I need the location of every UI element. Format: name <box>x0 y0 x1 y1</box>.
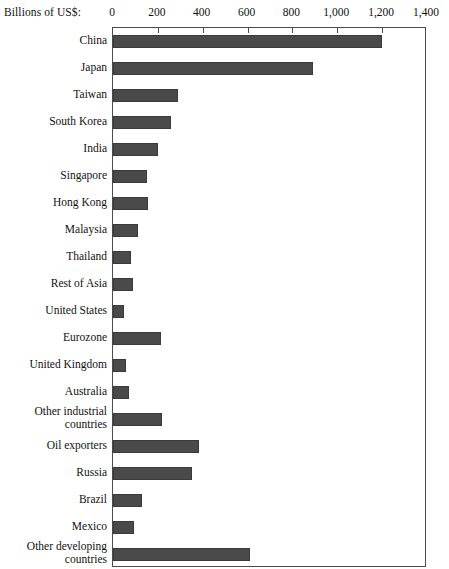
x-tick-label: 600 <box>238 6 255 18</box>
bar-row <box>113 487 425 514</box>
bar-row <box>113 190 425 217</box>
bar-row <box>113 298 425 325</box>
bar-row <box>113 460 425 487</box>
bar-row <box>113 352 425 379</box>
bar <box>113 467 192 480</box>
category-label: India <box>0 142 107 155</box>
bar-row <box>113 325 425 352</box>
bar <box>113 332 161 345</box>
bar-row <box>113 406 425 433</box>
category-label: Mexico <box>0 520 107 533</box>
bar-row <box>113 433 425 460</box>
bar <box>113 224 138 237</box>
category-label: China <box>0 34 107 47</box>
x-tick-label: 800 <box>283 6 300 18</box>
bar-row <box>113 136 425 163</box>
bar <box>113 521 134 534</box>
bar <box>113 305 124 318</box>
bar <box>113 548 250 561</box>
x-tick-label: 0 <box>109 6 115 18</box>
x-tick-label: 1,000 <box>323 6 349 18</box>
x-tick-label: 400 <box>193 6 210 18</box>
category-label: Singapore <box>0 169 107 182</box>
bar-row <box>113 244 425 271</box>
x-tick-label: 1,200 <box>368 6 394 18</box>
bar-row <box>113 163 425 190</box>
category-label: Rest of Asia <box>0 277 107 290</box>
category-label: South Korea <box>0 115 107 128</box>
category-label: United Kingdom <box>0 358 107 371</box>
category-label: Malaysia <box>0 223 107 236</box>
bar <box>113 386 129 399</box>
bar-row <box>113 109 425 136</box>
bar-chart: Billions of US$: 02004006008001,0001,200… <box>0 0 449 569</box>
category-label: Eurozone <box>0 331 107 344</box>
bar-row <box>113 82 425 109</box>
bar <box>113 440 199 453</box>
bar <box>113 359 126 372</box>
category-label: Thailand <box>0 250 107 263</box>
bar <box>113 494 142 507</box>
bar-row <box>113 514 425 541</box>
bar <box>113 116 171 129</box>
axis-caption: Billions of US$: <box>4 6 81 18</box>
x-tick-label: 1,400 <box>413 6 439 18</box>
bar-row <box>113 217 425 244</box>
bar <box>113 413 162 426</box>
category-label: Oil exporters <box>0 439 107 452</box>
category-label: Other industrial countries <box>0 405 107 430</box>
bar <box>113 251 131 264</box>
plot-area <box>112 27 426 567</box>
x-tick-label: 200 <box>148 6 165 18</box>
bar-row <box>113 541 425 568</box>
bar <box>113 197 148 210</box>
category-label: Australia <box>0 385 107 398</box>
bar <box>113 278 133 291</box>
bar-row <box>113 271 425 298</box>
bar <box>113 143 158 156</box>
bar <box>113 35 382 48</box>
bar-row <box>113 55 425 82</box>
category-label: Taiwan <box>0 88 107 101</box>
category-label: Russia <box>0 466 107 479</box>
category-label: Japan <box>0 61 107 74</box>
category-label: Brazil <box>0 493 107 506</box>
bar <box>113 62 313 75</box>
category-labels: ChinaJapanTaiwanSouth KoreaIndiaSingapor… <box>0 27 107 567</box>
bar <box>113 170 147 183</box>
category-label: Other developing countries <box>0 540 107 565</box>
bar <box>113 89 178 102</box>
bar-row <box>113 379 425 406</box>
bar-row <box>113 28 425 55</box>
category-label: United States <box>0 304 107 317</box>
category-label: Hong Kong <box>0 196 107 209</box>
